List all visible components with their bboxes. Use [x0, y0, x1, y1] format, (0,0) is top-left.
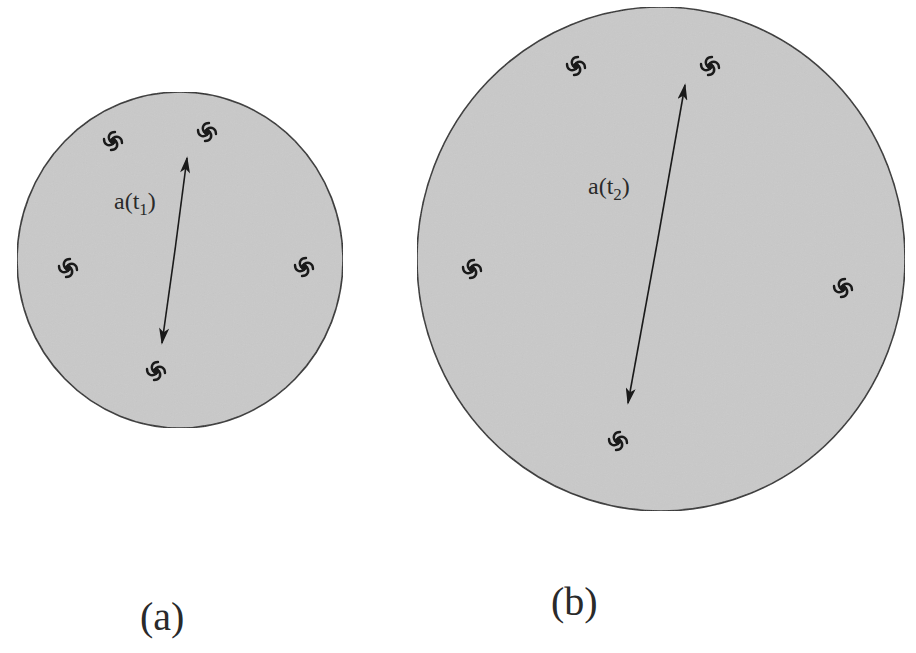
universe-disk-b	[417, 7, 905, 511]
caption-a: (a)	[140, 594, 184, 639]
expanding-universe-diagram: a(t1) a(t2) (a) (b)	[0, 0, 916, 653]
panel-b: a(t2)	[417, 7, 905, 511]
panel-a: a(t1)	[17, 92, 343, 428]
caption-b: (b)	[551, 579, 598, 624]
